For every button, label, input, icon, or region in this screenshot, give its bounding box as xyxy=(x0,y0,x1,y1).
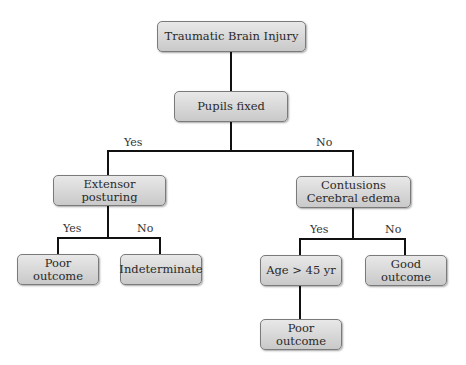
edge-label-extensor-no: No xyxy=(137,222,153,235)
node-poor-outcome-2: Poor outcome xyxy=(260,319,342,350)
edge-contusions-branches xyxy=(300,239,405,255)
edge-label-extensor-yes: Yes xyxy=(63,222,81,235)
edge-label-contusions-no: No xyxy=(385,223,401,236)
edge-label-pupils-yes: Yes xyxy=(124,136,142,149)
node-poor-outcome-1: Poor outcome xyxy=(17,254,99,285)
edge-label-pupils-no: No xyxy=(316,136,332,149)
edge-label-contusions-yes: Yes xyxy=(310,223,328,236)
node-indeterminate: Indeterminate xyxy=(120,254,202,285)
node-contusions-cerebral-edema: Contusions Cerebral edema xyxy=(296,176,411,208)
edge-pupils-branches xyxy=(108,151,353,176)
node-pupils-fixed: Pupils fixed xyxy=(174,91,288,122)
node-age-over-45: Age > 45 yr xyxy=(260,255,342,286)
node-extensor-posturing: Extensor posturing xyxy=(53,175,166,206)
edge-extensor-branches xyxy=(58,238,160,254)
node-traumatic-brain-injury: Traumatic Brain Injury xyxy=(157,21,306,52)
node-good-outcome: Good outcome xyxy=(365,255,447,286)
